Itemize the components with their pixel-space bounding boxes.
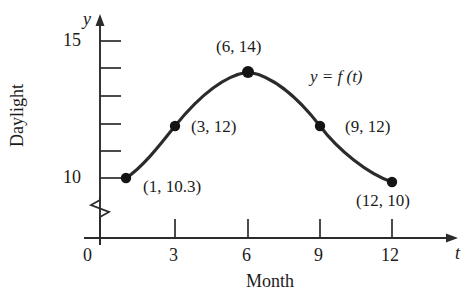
data-point-12 [387,177,397,187]
origin-label: 0 [83,246,92,264]
y-axis-variable-label: y [83,10,91,28]
x-axis-variable-label: t [455,244,460,262]
data-point-3 [170,121,180,131]
x-tick-label-9: 9 [314,246,323,264]
chart-figure: y t y = f (t) 15 10 0 3 6 9 12 Month Day… [0,0,473,304]
x-tick-label-12: 12 [381,246,399,264]
data-point-label-9: (9, 12) [345,118,390,135]
y-tick-label-15: 15 [63,31,81,49]
x-tick-label-3: 3 [169,246,178,264]
data-point-1 [121,173,131,183]
y-axis-title: Daylight [8,84,26,147]
data-point-label-6: (6, 14) [216,38,261,55]
function-label: y = f (t) [310,68,363,85]
x-axis-title: Month [246,272,294,290]
x-axis [84,234,458,243]
y-axis-ticks [100,41,121,178]
data-point-label-3: (3, 12) [191,118,236,135]
x-axis-arrowhead [446,234,458,243]
y-tick-label-10: 10 [63,168,81,186]
data-point-9 [315,121,325,131]
x-tick-label-6: 6 [242,246,251,264]
data-point-label-12: (12, 10) [356,192,410,209]
data-point-label-1: (1, 10.3) [143,178,201,195]
y-axis-arrowhead [96,14,105,26]
data-point-6 [242,66,254,78]
x-axis-ticks [175,219,392,238]
